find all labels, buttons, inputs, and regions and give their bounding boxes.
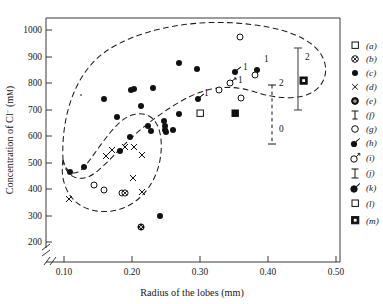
legend-label: (b) (366, 54, 377, 64)
y-tick-label: 900 (28, 52, 42, 62)
legend-label: (i) (366, 153, 375, 163)
legend-label: (m) (366, 216, 379, 226)
annotation-label: 1 (243, 62, 248, 72)
figure-background (0, 0, 383, 304)
y-tick-label: 600 (28, 131, 42, 141)
x-axis-title: Radius of the lobes (mm) (140, 287, 244, 299)
data-point (117, 148, 123, 154)
data-point (237, 34, 243, 40)
data-point (252, 72, 258, 78)
filled-circle-icon (352, 70, 358, 76)
legend-label: (l) (366, 199, 375, 209)
data-point (122, 190, 128, 196)
data-point (91, 182, 97, 188)
data-point (161, 118, 167, 124)
y-axis-title-units-end: ) (4, 86, 16, 89)
annotation-label: 0 (279, 124, 284, 134)
data-point (148, 128, 154, 134)
data-point (157, 213, 163, 219)
annotation-label: 1 (204, 88, 209, 98)
legend-label: (j) (366, 168, 375, 178)
data-point (150, 85, 156, 91)
data-point (138, 103, 144, 109)
figure-container: 200 300 400 500 600 700 800 900 1000 0.1… (0, 0, 383, 304)
data-point (238, 95, 244, 101)
legend-label: (h) (366, 138, 377, 148)
annotation-label: 2 (279, 78, 284, 88)
y-tick-label: 300 (28, 211, 42, 221)
data-point (232, 110, 238, 116)
data-point (216, 87, 222, 93)
legend-label: (g) (366, 124, 377, 134)
dotted-filled-square-icon (352, 217, 359, 224)
data-point (170, 127, 176, 133)
scatter-chart: 200 300 400 500 600 700 800 900 1000 0.1… (0, 0, 383, 304)
data-point (176, 60, 182, 66)
open-square-icon (352, 200, 358, 206)
series-filled-square (232, 110, 238, 116)
bullseye-circle-icon (352, 98, 359, 105)
legend-label: (a) (366, 41, 377, 51)
data-point (194, 66, 200, 72)
data-point (127, 134, 133, 140)
crossed-circle-icon (352, 56, 359, 63)
x-tick-label: 0.30 (192, 267, 209, 277)
legend-label: (f) (366, 110, 375, 120)
stray-speck (80, 94, 82, 96)
y-tick-label: 200 (28, 237, 42, 247)
data-point (145, 123, 151, 129)
y-tick-label: 700 (28, 105, 42, 115)
legend-label: (k) (366, 183, 376, 193)
data-point (67, 169, 73, 175)
legend-label: (e) (366, 96, 376, 106)
annotation-label: 1 (264, 54, 269, 64)
data-point (163, 129, 169, 135)
y-axis-title-text: Concentration of Cl (4, 113, 15, 194)
y-axis-title-group: Concentration of Cl− (mM) (4, 86, 16, 194)
y-tick-label: 800 (28, 78, 42, 88)
legend-label: (c) (366, 68, 376, 78)
data-point (101, 187, 107, 193)
data-point (176, 111, 182, 117)
y-axis-title-units: (m (4, 96, 16, 107)
x-tick-label: 0.20 (124, 267, 141, 277)
open-circle-icon (352, 126, 359, 133)
y-tick-label: 500 (28, 158, 42, 168)
data-point (131, 86, 137, 92)
data-point (114, 114, 120, 120)
legend-label: (d) (366, 82, 377, 92)
series-dotted-filled-square (300, 77, 307, 84)
y-tick-label: 400 (28, 184, 42, 194)
data-point (197, 110, 203, 116)
data-point (101, 96, 107, 102)
x-tick-label: 0.10 (56, 267, 73, 277)
data-point (81, 164, 87, 170)
annotation-label: 1 (238, 75, 243, 85)
y-tick-label: 1000 (23, 25, 42, 35)
data-point (138, 224, 144, 230)
x-tick-label: 0.40 (260, 267, 277, 277)
open-square-icon (352, 42, 358, 48)
data-point (300, 77, 307, 84)
x-tick-label: 0.50 (328, 267, 345, 277)
series-open-square (197, 110, 203, 116)
svg-text:Concentration of Cl− (mM): Concentration of Cl− (mM) (4, 86, 16, 194)
annotation-label: 2 (305, 52, 310, 62)
